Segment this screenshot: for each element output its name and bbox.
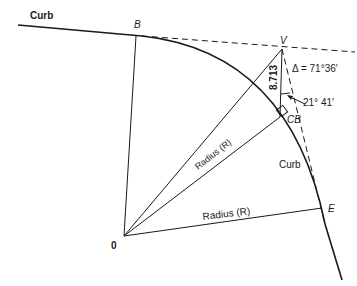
arrow-head-icon xyxy=(287,95,293,100)
radius-ov xyxy=(124,49,282,236)
angle-small-label: 21° 41′ xyxy=(303,97,334,108)
curb-geometry-diagram: Curb B V Δ = 71°36′ 21° 41′ 8.713 CB Rad… xyxy=(0,0,357,286)
center-o-label: 0 xyxy=(111,240,117,251)
radius-ob xyxy=(124,36,136,236)
tangent-bv-dashed xyxy=(142,36,355,52)
diagram-canvas: Curb B V Δ = 71°36′ 21° 41′ 8.713 CB Rad… xyxy=(0,0,357,286)
curb-right-label: Curb xyxy=(279,159,301,170)
curb-top-line xyxy=(18,25,142,36)
angle-arc xyxy=(281,93,290,94)
point-v-label: V xyxy=(280,35,288,46)
delta-label: Δ = 71°36′ xyxy=(292,63,338,74)
point-cb-label: CB xyxy=(287,114,301,125)
point-e-label: E xyxy=(328,203,335,214)
radius-label-1: Radius (R) xyxy=(193,137,233,171)
curb-top-label: Curb xyxy=(30,10,53,21)
curb-right-line xyxy=(325,224,342,280)
point-b-label: B xyxy=(134,19,141,30)
distance-label: 8.713 xyxy=(268,65,279,90)
